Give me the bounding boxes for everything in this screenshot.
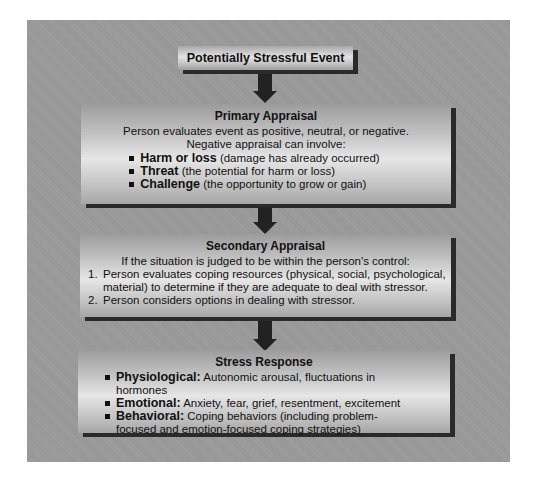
stress-response-title: Stress Response: [78, 355, 450, 369]
list-item: 2.Person considers options in dealing wi…: [88, 294, 451, 307]
secondary-appraisal-list: 1.Person evaluates coping resources (phy…: [88, 268, 451, 307]
bullet-square-icon: [105, 375, 110, 380]
bullet-term: Physiological:: [116, 370, 201, 384]
bullet-square-icon: [129, 182, 134, 187]
arrow-down-icon: [253, 321, 277, 351]
primary-appraisal-line-1: Person evaluates event as positive, neut…: [81, 125, 451, 138]
primary-appraisal-line-2: Negative appraisal can involve:: [81, 138, 451, 151]
bullet-term: Threat: [140, 164, 178, 178]
list-item: Behavioral: Coping behaviors (including …: [104, 410, 416, 436]
bullet-term: Behavioral:: [116, 409, 184, 423]
bullet-term: Harm or loss: [140, 151, 216, 165]
secondary-appraisal-line-1: If the situation is judged to be within …: [80, 255, 451, 268]
arrow-down-icon: [253, 207, 277, 234]
list-item: 1.Person evaluates coping resources (phy…: [88, 268, 451, 294]
secondary-appraisal-box: Secondary Appraisal If the situation is …: [80, 234, 451, 317]
bullet-desc: (the potential for harm or loss): [178, 165, 335, 177]
primary-appraisal-list: Harm or loss (damage has already occurre…: [128, 152, 379, 191]
secondary-appraisal-title: Secondary Appraisal: [80, 239, 451, 253]
primary-appraisal-title: Primary Appraisal: [81, 109, 451, 123]
event-title: Potentially Stressful Event: [178, 46, 353, 70]
stress-response-list: Physiological: Autonomic arousal, fluctu…: [104, 371, 416, 436]
list-text: Person evaluates coping resources (physi…: [103, 268, 446, 293]
list-item: Physiological: Autonomic arousal, fluctu…: [104, 371, 416, 397]
bullet-square-icon: [105, 414, 110, 419]
list-number: 2.: [88, 294, 98, 307]
arrow-down-icon: [253, 74, 277, 103]
bullet-square-icon: [129, 156, 134, 161]
list-text: Person considers options in dealing with…: [103, 294, 355, 306]
bullet-desc: (damage has already occurred): [217, 152, 380, 164]
bullet-square-icon: [129, 169, 134, 174]
stress-response-box: Stress Response Physiological: Autonomic…: [78, 350, 450, 433]
bullet-desc: (the opportunity to grow or gain): [200, 178, 366, 190]
list-item: Challenge (the opportunity to grow or ga…: [128, 178, 379, 191]
bullet-term: Challenge: [140, 177, 200, 191]
bullet-desc: Anxiety, fear, grief, resentment, excite…: [181, 397, 401, 409]
bullet-term: Emotional:: [116, 396, 181, 410]
primary-appraisal-box: Primary Appraisal Person evaluates event…: [81, 104, 451, 204]
bullet-square-icon: [105, 401, 110, 406]
event-box: Potentially Stressful Event: [178, 46, 353, 70]
list-number: 1.: [88, 268, 98, 281]
